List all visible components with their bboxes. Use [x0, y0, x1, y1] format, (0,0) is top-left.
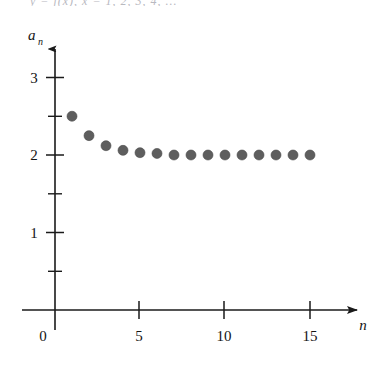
x-tick-label-5: 5	[135, 328, 143, 344]
data-point	[220, 150, 230, 160]
chart-canvas: 1 2 3 a n 0 5 10 15 n	[0, 0, 381, 370]
data-point	[135, 148, 145, 158]
x-axis-label: n	[359, 317, 367, 333]
data-point	[67, 111, 77, 121]
x-axis: 0 5 10 15 n	[22, 301, 367, 344]
data-point	[101, 141, 111, 151]
data-point	[186, 150, 196, 160]
y-tick-label-2: 2	[30, 147, 38, 163]
x-tick-label-0: 0	[39, 328, 47, 344]
data-point	[169, 150, 179, 160]
data-point	[237, 150, 247, 160]
data-point	[203, 150, 213, 160]
y-tick-label-1: 1	[30, 225, 38, 241]
y-axis-label-subscript: n	[38, 36, 43, 47]
x-tick-label-10: 10	[217, 328, 232, 344]
data-point	[118, 145, 128, 155]
data-point	[254, 150, 264, 160]
data-point	[152, 148, 162, 158]
y-axis-label: a	[28, 27, 36, 43]
cropped-header-text: y = f(x), x = 1, 2, 3, 4, ...	[30, 0, 330, 6]
y-tick-label-3: 3	[30, 70, 38, 86]
data-point	[288, 150, 298, 160]
data-point	[305, 150, 315, 160]
data-point	[271, 150, 281, 160]
x-tick-label-15: 15	[303, 328, 318, 344]
data-point-series	[67, 111, 315, 160]
y-axis: 1 2 3 a n	[28, 27, 64, 330]
sequence-scatter-figure: y = f(x), x = 1, 2, 3, 4, ... 1 2 3 a	[0, 0, 381, 370]
data-point	[84, 131, 94, 141]
